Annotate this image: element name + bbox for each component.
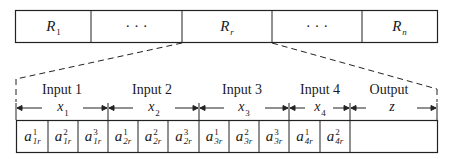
segment-label-output: Output [357, 83, 421, 97]
bottom-cell-a2-3r: a23r [229, 121, 259, 152]
top-cell-rr: Rr [182, 11, 272, 42]
top-cell-rn: Rn [362, 11, 437, 42]
bottom-cell-a2-2r: a22r [138, 121, 168, 152]
segment-var-x3: x3 [227, 100, 261, 114]
bottom-cell-a1-3r: a13r [199, 121, 229, 152]
segment-var-z: z [375, 100, 409, 114]
segment-label-input-2: Input 2 [120, 83, 184, 97]
bottom-cell-a3-3r: a33r [259, 121, 289, 152]
top-cell-r1: R1 [16, 11, 91, 42]
segment-var-x4: x4 [303, 100, 337, 114]
bottom-cell-a2-4r: a24r [320, 121, 350, 152]
bottom-cell-a3-2r: a32r [168, 121, 199, 152]
segment-var-x2: x2 [137, 100, 171, 114]
top-cell-ellipsis-right: · · · [272, 11, 362, 42]
bottom-cell-a1-4r: a14r [289, 121, 320, 152]
top-cell-ellipsis-left: · · · [91, 11, 182, 42]
bottom-cell-a1-1r: a11r [17, 121, 48, 152]
segment-label-input-3: Input 3 [210, 83, 274, 97]
segment-var-x1: x1 [46, 100, 80, 114]
bottom-cell-a1-2r: a12r [108, 121, 138, 152]
bottom-cell-a2-1r: a21r [48, 121, 78, 152]
segment-label-input-1: Input 1 [30, 83, 94, 97]
segment-label-input-4: Input 4 [288, 83, 352, 97]
bottom-cell-a3-1r: a31r [78, 121, 108, 152]
